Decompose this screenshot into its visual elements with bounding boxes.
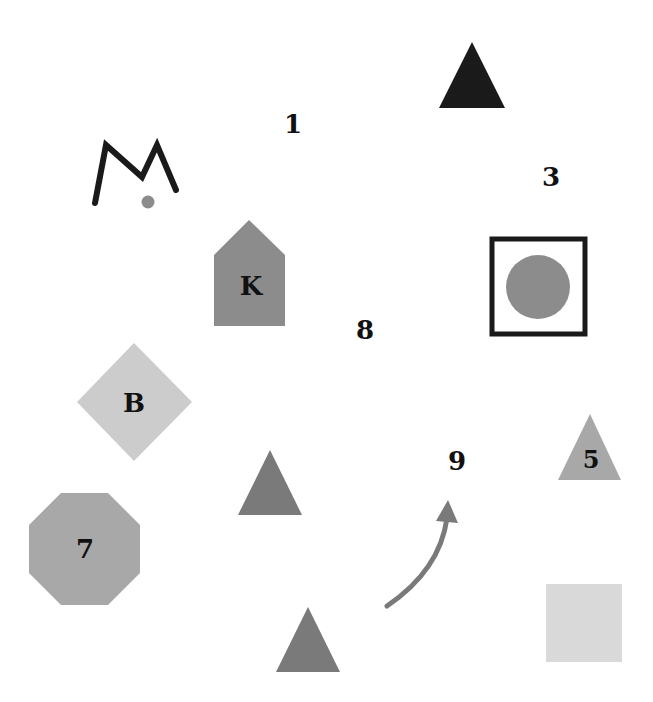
house-shape-k: K: [214, 220, 285, 326]
triangle-shape-5: 5: [558, 414, 621, 480]
gray-triangle-middle: [238, 450, 302, 515]
black-triangle: [439, 42, 505, 108]
label-5: 5: [583, 445, 600, 474]
octagon-shape-7: 7: [29, 493, 140, 605]
diamond-shape-b: B: [77, 343, 192, 461]
pale-square: [546, 584, 622, 662]
label-1: 1: [284, 109, 302, 139]
label-9: 9: [448, 446, 466, 476]
label-k: K: [240, 271, 264, 301]
label-b: B: [123, 388, 145, 418]
framed-circle: [492, 239, 585, 334]
gray-dot: [142, 196, 155, 209]
label-3: 3: [542, 162, 560, 192]
label-8: 8: [356, 315, 374, 345]
diagram-svg: 1 3 K 8 B 9 5 7: [0, 0, 653, 702]
gray-triangle-bottom: [276, 607, 340, 672]
m-stroke-icon: [95, 145, 176, 209]
diagram-canvas: 1 3 K 8 B 9 5 7: [0, 0, 653, 702]
label-7: 7: [76, 534, 94, 564]
curved-arrow-icon: [387, 500, 458, 606]
